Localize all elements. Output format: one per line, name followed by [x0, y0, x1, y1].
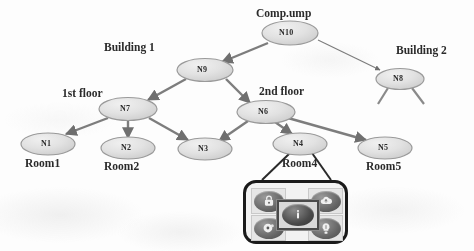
- edge-N7-N3: [149, 118, 188, 140]
- edge-N6-N4: [275, 122, 292, 134]
- node-tag-N3: N3: [198, 144, 208, 153]
- node-tag-N4: N4: [293, 139, 303, 148]
- edge-N6-N3: [219, 121, 248, 141]
- node-tag-N9: N9: [197, 65, 207, 74]
- edge-N7-N1: [66, 118, 108, 134]
- node-tag-N6: N6: [258, 107, 268, 116]
- edge-N9-N7: [148, 79, 186, 100]
- node-tag-N8: N8: [393, 74, 403, 83]
- edge-N9-N6: [226, 79, 250, 103]
- node-tag-N10: N10: [279, 28, 293, 37]
- stub-edge-group: [378, 88, 424, 104]
- caption-1st-floor: 1st floor: [62, 87, 103, 99]
- caption-room1: Room1: [25, 157, 60, 169]
- info-icon: [282, 204, 314, 226]
- stub-N8-left: [378, 88, 388, 104]
- device-icon-panel[interactable]: [243, 180, 348, 244]
- caption-root: Comp.ump: [256, 7, 311, 19]
- caption-room5: Room5: [366, 160, 401, 172]
- node-tag-N2: N2: [121, 143, 131, 152]
- edge-group: [66, 40, 380, 141]
- info-icon-cell-selected[interactable]: [277, 200, 319, 230]
- caption-building-2: Building 2: [396, 44, 447, 56]
- node-tag-N5: N5: [378, 143, 388, 152]
- caption-room4: Room4: [282, 157, 317, 169]
- stub-N8-right: [412, 88, 424, 104]
- caption-building-1: Building 1: [104, 41, 155, 53]
- edge-N10-N9: [222, 43, 268, 62]
- tree-graph: [0, 0, 474, 251]
- diagram-canvas: N10 N9 N8 N7 N6 N1 N2 N3 N4 N5 Comp.ump …: [0, 0, 474, 251]
- edge-N10-N8: [318, 40, 380, 70]
- node-tag-N1: N1: [41, 139, 51, 148]
- caption-room2: Room2: [104, 160, 139, 172]
- caption-2nd-floor: 2nd floor: [259, 85, 304, 97]
- node-tag-N7: N7: [120, 104, 130, 113]
